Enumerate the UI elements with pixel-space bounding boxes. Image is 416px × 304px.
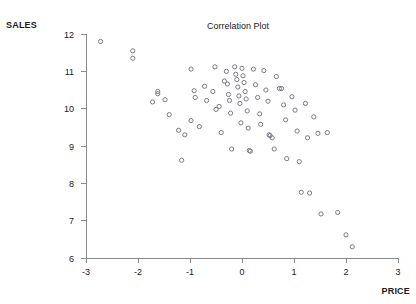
data-point [303, 101, 307, 105]
data-point [290, 95, 294, 99]
data-point [192, 89, 196, 93]
data-point [163, 98, 167, 102]
data-point [230, 147, 234, 151]
data-point [193, 95, 197, 99]
x-tick-label: 0 [239, 267, 244, 277]
axes-group [86, 34, 399, 259]
y-tick-label: 6 [69, 254, 74, 264]
data-point [189, 67, 193, 71]
y-axis-label: SALES [6, 20, 37, 30]
data-point [239, 121, 243, 125]
data-point [227, 98, 231, 102]
data-point [262, 68, 266, 72]
data-point [224, 69, 228, 73]
data-point [258, 112, 262, 116]
data-point [228, 111, 232, 115]
y-tick-label: 7 [69, 216, 74, 226]
data-point [284, 118, 288, 122]
correlation-plot-figure: 6789101112-3-2-10123 Correlation Plot SA… [0, 0, 416, 304]
data-point [213, 65, 217, 69]
data-point [225, 82, 229, 86]
data-point [183, 133, 187, 137]
data-point [325, 130, 329, 134]
data-point [274, 74, 278, 78]
data-point [245, 109, 249, 113]
data-point [189, 119, 193, 123]
data-point [242, 80, 246, 84]
data-point [312, 115, 316, 119]
y-tick-label: 9 [69, 142, 74, 152]
data-point [233, 65, 237, 69]
data-point [295, 129, 299, 133]
x-tick-label: -1 [186, 267, 194, 277]
data-point [131, 56, 135, 60]
x-tick-label: 3 [395, 267, 400, 277]
data-point [211, 89, 215, 93]
data-point [202, 84, 206, 88]
data-point [219, 130, 223, 134]
data-point [266, 99, 270, 103]
data-point [264, 88, 268, 92]
data-point [305, 136, 309, 140]
data-point [246, 126, 250, 130]
data-point [251, 67, 255, 71]
x-tick-label: -3 [82, 267, 90, 277]
data-point [336, 210, 340, 214]
data-point [244, 97, 248, 101]
data-point [234, 72, 238, 76]
data-point [259, 122, 263, 126]
data-point [282, 103, 286, 107]
data-point [131, 49, 135, 53]
data-point [344, 233, 348, 237]
scatter-plot-canvas: 6789101112-3-2-10123 Correlation Plot SA… [0, 0, 416, 304]
data-point [285, 157, 289, 161]
y-tick-label: 10 [64, 104, 74, 114]
data-point [243, 89, 247, 93]
x-axis-label: PRICE [381, 286, 410, 296]
data-point [235, 77, 239, 81]
data-point [98, 39, 102, 43]
data-point [316, 131, 320, 135]
data-point [297, 160, 301, 164]
data-point [293, 108, 297, 112]
data-point [350, 245, 354, 249]
data-point [238, 101, 242, 105]
data-point [272, 147, 276, 151]
data-point [180, 158, 184, 162]
data-point [308, 191, 312, 195]
data-point [319, 212, 323, 216]
data-points-group [98, 39, 354, 249]
data-point [240, 66, 244, 70]
data-point [226, 92, 230, 96]
chart-title: Correlation Plot [207, 21, 270, 31]
data-point [256, 95, 260, 99]
data-point [237, 94, 241, 98]
y-tick-label: 8 [69, 179, 74, 189]
data-point [150, 100, 154, 104]
data-point [167, 113, 171, 117]
x-tick-label: -2 [134, 267, 142, 277]
data-point [197, 124, 201, 128]
x-tick-label: 1 [291, 267, 296, 277]
x-tick-label: 2 [343, 267, 348, 277]
data-point [241, 74, 245, 78]
data-point [299, 190, 303, 194]
data-point [217, 104, 221, 108]
data-point [253, 83, 257, 87]
data-point [236, 85, 240, 89]
y-tick-label: 12 [64, 30, 74, 40]
y-tick-label: 11 [65, 67, 74, 77]
data-point [176, 128, 180, 132]
data-point [205, 98, 209, 102]
